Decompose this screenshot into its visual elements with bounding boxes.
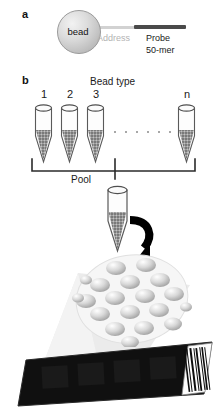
address-segment <box>96 26 136 29</box>
figure-root: a bead Address Probe 50-mer b Bead type … <box>0 0 224 415</box>
panel-letter-a: a <box>22 8 28 20</box>
pool-label: Pool <box>71 174 91 185</box>
bead-type-title: Bead type <box>90 76 135 87</box>
address-label: Address <box>97 33 130 43</box>
microarray-slide <box>8 338 218 408</box>
panel-letter-b: b <box>22 74 29 86</box>
bead-sphere-label: bead <box>57 26 99 37</box>
probe-label: Probe <box>146 33 170 44</box>
tube-label-2: 2 <box>60 88 80 100</box>
probe-length-label: 50-mer <box>146 45 175 56</box>
tube-ellipsis <box>114 131 171 133</box>
pool-bracket <box>0 155 224 185</box>
tube-label-n: n <box>177 88 197 100</box>
bead-array-disc <box>70 252 200 347</box>
tube-label-1: 1 <box>34 88 54 100</box>
probe-segment <box>134 25 186 29</box>
tube-label-3: 3 <box>86 88 106 100</box>
